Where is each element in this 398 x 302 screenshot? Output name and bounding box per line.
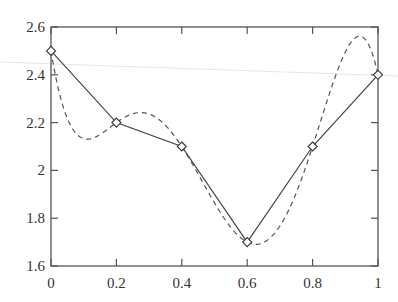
axes (51, 27, 378, 266)
y-tick-label: 2.2 (26, 115, 45, 131)
y-tick-label: 2 (38, 162, 46, 178)
x-tick-label: 0.2 (107, 275, 126, 291)
series-data-points-line (51, 51, 378, 242)
x-axis: 00.20.40.60.81 (47, 27, 382, 291)
plot-frame (51, 27, 378, 266)
y-tick-label: 2.4 (26, 67, 45, 83)
x-tick-label: 0.8 (303, 275, 322, 291)
x-tick-label: 0 (47, 275, 55, 291)
x-tick-label: 0.4 (172, 275, 191, 291)
y-tick-label: 2.6 (26, 19, 45, 35)
y-tick-label: 1.6 (26, 258, 45, 274)
series-layer (47, 36, 383, 246)
y-tick-label: 1.8 (26, 210, 45, 226)
x-tick-label: 0.6 (238, 275, 257, 291)
chart: 00.20.40.60.81 1.61.822.22.42.6 (0, 0, 398, 302)
x-tick-label: 1 (374, 275, 382, 291)
series-interpolating-polynomial (51, 36, 378, 244)
data-point-marker (177, 142, 186, 151)
y-axis: 1.61.822.22.42.6 (26, 19, 378, 274)
data-point-marker (243, 238, 252, 247)
